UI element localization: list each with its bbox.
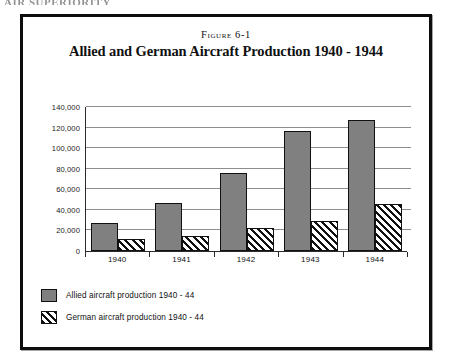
bar-german-1943	[311, 221, 338, 251]
figure-number: Figure 6-1	[23, 28, 429, 41]
bar-allied-1942	[220, 173, 247, 251]
y-axis-tick-label: 40,000	[56, 205, 80, 214]
y-axis-tick-label: 80,000	[56, 164, 80, 173]
bar-group	[343, 107, 407, 251]
x-axis-label-1941: 1941	[149, 255, 213, 264]
bar-german-1940	[118, 239, 145, 251]
x-axis-label-1943: 1943	[278, 255, 342, 264]
legend-item: Allied aircraft production 1940 - 44	[41, 289, 204, 302]
bar-group	[279, 107, 343, 251]
y-axis-tick-label: 0	[76, 247, 80, 256]
legend-item: German aircraft production 1940 - 44	[41, 311, 204, 324]
bar-german-1942	[247, 228, 274, 251]
x-axis-tick	[407, 252, 408, 257]
bar-german-1944	[375, 204, 402, 251]
legend-label: Allied aircraft production 1940 - 44	[66, 291, 194, 300]
y-axis-tick-label: 120,000	[52, 123, 80, 132]
bar-german-1941	[182, 236, 209, 251]
y-axis-tick-label: 100,000	[52, 144, 80, 153]
figure-title: Allied and German Aircraft Production 19…	[23, 42, 429, 61]
y-axis-tick-label: 20,000	[56, 226, 80, 235]
figure-caption: Figure 6-1 Allied and German Aircraft Pr…	[23, 28, 429, 61]
bar-group	[86, 107, 150, 251]
bar-group	[214, 107, 278, 251]
y-axis-tick-label: 140,000	[52, 103, 80, 112]
bar-allied-1944	[348, 120, 375, 251]
legend-swatch-german	[41, 311, 57, 324]
x-axis-label-1942: 1942	[214, 255, 278, 264]
bar-allied-1943	[284, 131, 311, 251]
bar-allied-1941	[155, 203, 182, 251]
legend-swatch-allied	[41, 289, 57, 302]
bar-allied-1940	[91, 223, 118, 251]
legend-label: German aircraft production 1940 - 44	[66, 313, 204, 322]
figure-frame: Figure 6-1 Allied and German Aircraft Pr…	[20, 14, 432, 350]
plot-area: 020,00040,00060,00080,000100,000120,0001…	[85, 107, 407, 252]
chart-legend: Allied aircraft production 1940 - 44Germ…	[41, 289, 204, 324]
x-axis-label-1944: 1944	[343, 255, 407, 264]
x-axis-label-1940: 1940	[85, 255, 149, 264]
bars-layer	[86, 107, 407, 251]
bar-group	[150, 107, 214, 251]
page-running-head: AIR SUPERIORITY	[4, 0, 111, 5]
y-axis-tick-label: 60,000	[56, 185, 80, 194]
x-axis-labels: 19401941194219431944	[85, 255, 407, 264]
chart: 020,00040,00060,00080,000100,000120,0001…	[23, 91, 429, 281]
